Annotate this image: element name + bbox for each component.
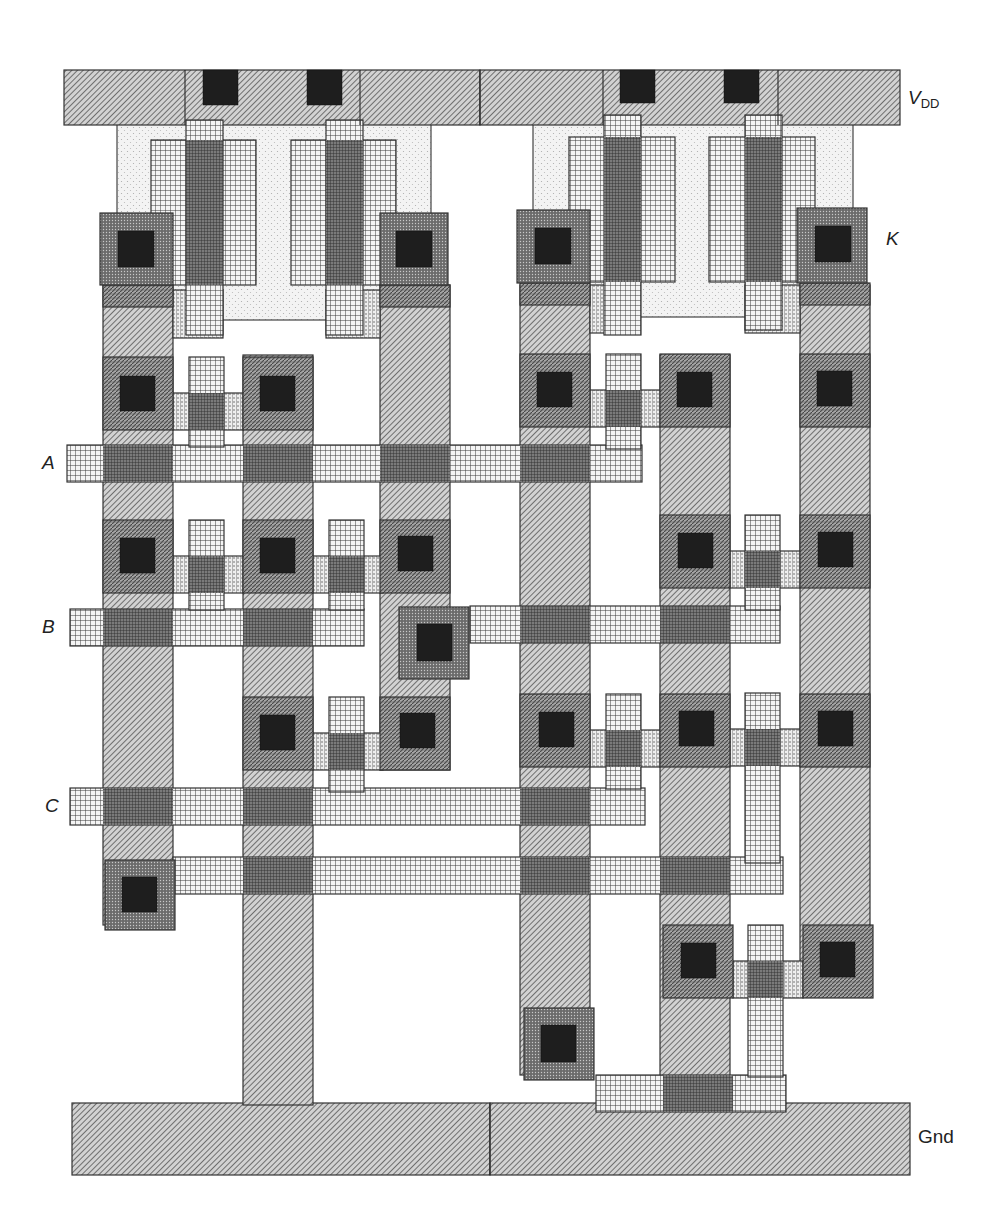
poly-crossing xyxy=(660,857,730,894)
a-input-label: A xyxy=(42,452,55,474)
contact-cut xyxy=(677,372,712,407)
contact-cut xyxy=(679,711,714,746)
diffusion-pad xyxy=(380,285,450,307)
poly-crossing xyxy=(660,606,730,643)
contact-cut xyxy=(537,372,572,407)
diffusion-pad xyxy=(520,283,590,305)
poly-crossing xyxy=(520,445,590,482)
poly-crossing xyxy=(243,857,313,894)
poly-crossing xyxy=(189,393,224,430)
contact-cut xyxy=(620,70,655,103)
contact-cut xyxy=(818,532,853,567)
contact-cut xyxy=(120,376,155,411)
vdd-label: VDD xyxy=(908,87,939,111)
poly-crossing xyxy=(243,445,313,482)
vdd-label-sub: DD xyxy=(921,96,940,111)
poly-crossing xyxy=(745,137,782,282)
poly-crossing xyxy=(189,556,224,593)
contact-cut xyxy=(815,226,851,262)
contact-cut xyxy=(120,538,155,573)
poly-crossing xyxy=(520,606,590,643)
poly-crossing xyxy=(326,140,363,285)
vdd-label-main: V xyxy=(908,87,921,108)
gnd-label: Gnd xyxy=(918,1126,954,1148)
poly-line xyxy=(748,925,783,1077)
contact-cut xyxy=(203,70,238,105)
contact-cut xyxy=(817,371,852,406)
poly-crossing xyxy=(103,788,173,825)
poly-crossing xyxy=(243,788,313,825)
poly-crossing xyxy=(380,445,450,482)
metal-strip xyxy=(64,70,480,125)
poly-crossing xyxy=(606,730,641,767)
poly-crossing xyxy=(103,609,173,646)
contact-cut xyxy=(724,70,759,103)
diffusion-pad xyxy=(800,283,870,305)
contact-cut xyxy=(539,712,574,747)
contact-cut xyxy=(118,231,154,267)
poly-crossing xyxy=(186,140,223,285)
contact-cut xyxy=(260,376,295,411)
contact-cut xyxy=(820,942,855,977)
poly-crossing xyxy=(329,733,364,770)
poly-crossing xyxy=(663,1075,733,1112)
cmos-layout-diagram xyxy=(0,0,1001,1212)
poly-line xyxy=(470,606,780,643)
contact-cut xyxy=(122,877,157,912)
poly-crossing xyxy=(520,857,590,894)
contact-cut xyxy=(400,713,435,748)
poly-crossing xyxy=(243,609,313,646)
poly-crossing xyxy=(329,556,364,593)
poly-line xyxy=(745,693,780,863)
poly-crossing xyxy=(520,788,590,825)
poly-crossing xyxy=(748,961,783,998)
metal-strip xyxy=(72,1103,490,1175)
contact-cut xyxy=(818,711,853,746)
contact-cut xyxy=(307,70,342,105)
contact-cut xyxy=(260,538,295,573)
metal-strip xyxy=(480,70,900,125)
poly-crossing xyxy=(745,729,780,766)
contact-cut xyxy=(260,715,295,750)
contact-cut xyxy=(398,536,433,571)
contact-cut xyxy=(541,1025,576,1062)
poly-crossing xyxy=(604,137,641,282)
diffusion-pad xyxy=(103,285,173,307)
poly-crossing xyxy=(745,551,780,588)
contact-cut xyxy=(396,231,432,267)
contact-cut xyxy=(417,624,452,661)
metal-strip xyxy=(490,1103,910,1175)
c-input-label: C xyxy=(45,795,59,817)
k-label: K xyxy=(886,228,899,250)
contact-cut xyxy=(681,943,716,978)
pmos-gate-region-layer xyxy=(151,137,815,285)
contact-cut xyxy=(678,533,713,568)
contact-cut xyxy=(535,228,571,264)
poly-crossing xyxy=(606,390,641,427)
b-input-label: B xyxy=(42,616,55,638)
poly-crossing xyxy=(103,445,173,482)
